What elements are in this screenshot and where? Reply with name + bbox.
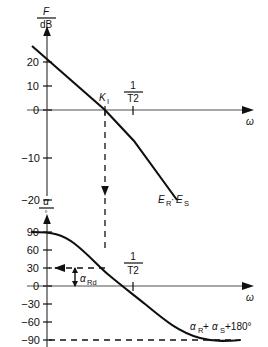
er-label-dot: · xyxy=(171,194,174,205)
alpha-rd-label: α Rd xyxy=(80,273,97,287)
phase-ytick-label-30: 30 xyxy=(27,262,39,274)
ki-dropline-arrowhead xyxy=(101,186,109,196)
alpha-rd-label-subscript: Rd xyxy=(87,278,97,287)
phase-plot: 90 60 30 0 −30 −60 −90 α ° ω 1 T2 xyxy=(21,196,254,347)
phase-x-axis-arrow xyxy=(242,282,254,290)
magnitude-x-axis-label: ω xyxy=(246,116,254,127)
alpha-rd-dashed-line-arrowhead xyxy=(54,264,65,272)
figure-canvas: 20 10 0 −10 −20 F dB ω K I xyxy=(0,0,268,347)
er-label-sub-s: S xyxy=(184,199,189,208)
bode-diagram-figure: 20 10 0 −10 −20 F dB ω K I xyxy=(0,0,268,347)
phase-y-axis-denominator: ° xyxy=(45,209,48,218)
ki-label-subscript: I xyxy=(107,97,109,106)
magnitude-ytick-label-20: 20 xyxy=(27,56,39,68)
asym-label-plus1: + xyxy=(203,321,209,332)
er-label-e2: E xyxy=(176,194,183,205)
magnitude-plot: 20 10 0 −10 −20 F dB ω K I xyxy=(21,6,254,253)
magnitude-ytick-label-minus20: −20 xyxy=(21,194,40,206)
magnitude-marker-label-ki: K I xyxy=(99,92,109,106)
magnitude-curve-label: E R · E S xyxy=(158,194,189,208)
asym-label-alpha2: α xyxy=(212,321,218,332)
phase-ytick-label-minus90: −90 xyxy=(21,334,40,346)
phase-ytick-label-minus30: −30 xyxy=(21,298,40,310)
asym-label-tail: +180° xyxy=(225,321,252,332)
t2-label-numerator: 1 xyxy=(130,80,136,91)
phase-ytick-label-60: 60 xyxy=(27,244,39,256)
phase-t2-label-numerator: 1 xyxy=(130,251,136,262)
phase-marker-label-t2: 1 T2 xyxy=(124,251,143,276)
t2-label-denominator: T2 xyxy=(127,93,139,104)
phase-x-axis-label: ω xyxy=(246,292,254,303)
magnitude-y-axis-numerator: F xyxy=(43,6,50,17)
magnitude-y-axis-denominator: dB xyxy=(40,19,53,30)
magnitude-ytick-label-minus10: −10 xyxy=(21,152,40,164)
magnitude-marker-label-t2: 1 T2 xyxy=(124,80,143,104)
phase-ytick-label-minus60: −60 xyxy=(21,316,40,328)
alpha-rd-label-main: α xyxy=(80,273,86,284)
magnitude-x-axis-arrow xyxy=(242,106,254,114)
magnitude-y-axis-label: F dB xyxy=(37,6,56,30)
phase-y-axis-label: α ° xyxy=(39,196,54,218)
phase-ytick-label-0: 0 xyxy=(33,280,39,292)
phase-curve-label: α R + α S +180° xyxy=(190,321,252,335)
asym-label-alpha1: α xyxy=(190,321,196,332)
er-label-e1: E xyxy=(158,194,165,205)
phase-t2-label-denominator: T2 xyxy=(127,265,139,276)
phase-y-axis-numerator: α xyxy=(43,196,49,207)
magnitude-ytick-label-0: 0 xyxy=(33,104,39,116)
ki-label-main: K xyxy=(99,92,107,103)
magnitude-ytick-label-10: 10 xyxy=(27,80,39,92)
